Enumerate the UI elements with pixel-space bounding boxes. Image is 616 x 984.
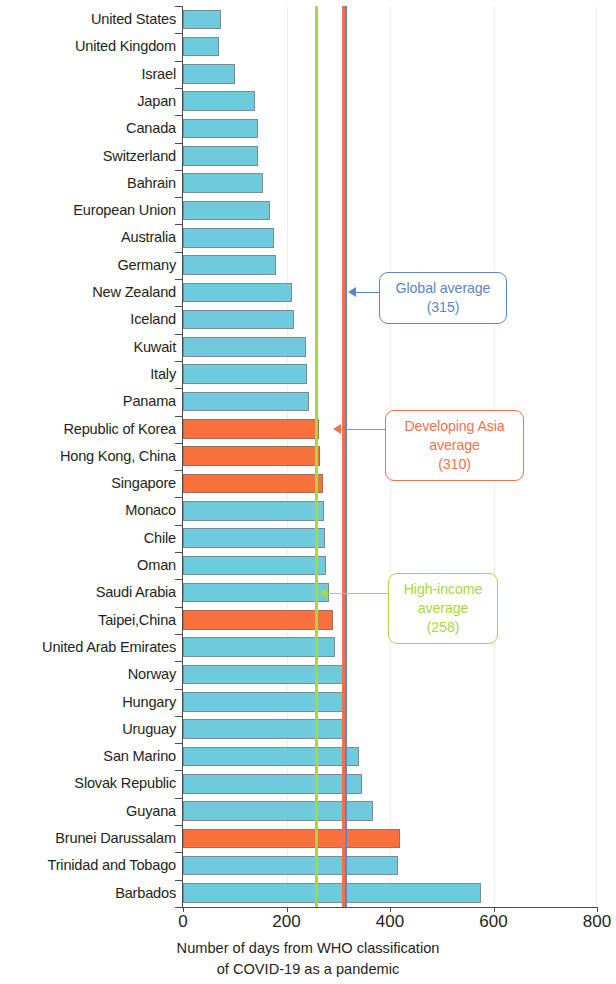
category-tick — [175, 497, 183, 498]
category-label: Panama — [4, 388, 176, 415]
value-tick-label: 800 — [583, 912, 611, 932]
category-tick — [175, 443, 183, 444]
bar — [183, 255, 276, 275]
category-label: Australia — [4, 224, 176, 251]
category-tick — [175, 825, 183, 826]
category-label: United Kingdom — [4, 33, 176, 60]
axis-title-line2: of COVID-19 as a pandemic — [0, 959, 616, 980]
bar-row — [183, 33, 597, 60]
bar — [183, 446, 320, 466]
category-label: Barbados — [4, 880, 176, 907]
bar — [183, 37, 219, 57]
category-label: Hungary — [4, 689, 176, 716]
category-label: Iceland — [4, 306, 176, 333]
arrow-head-developing-asia-average — [333, 424, 341, 434]
callout-global-line2: (315) — [390, 298, 496, 317]
bar-row — [183, 798, 597, 825]
bar-row — [183, 825, 597, 852]
category-tick — [175, 634, 183, 635]
category-label: United States — [4, 6, 176, 33]
bar — [183, 10, 221, 30]
bar-row — [183, 224, 597, 251]
callout-asia-line3: (310) — [396, 455, 513, 474]
category-label: Norway — [4, 661, 176, 688]
category-tick — [175, 361, 183, 362]
bar-row — [183, 743, 597, 770]
bar-row — [183, 770, 597, 797]
category-label: Hong Kong, China — [4, 443, 176, 470]
bar — [183, 228, 274, 248]
category-tick — [175, 525, 183, 526]
category-tick — [175, 306, 183, 307]
bar — [183, 829, 400, 849]
leader-line-developing-asia-average — [339, 429, 385, 430]
bar-row — [183, 88, 597, 115]
category-label: San Marino — [4, 743, 176, 770]
reference-line-high-income-average — [315, 6, 317, 907]
category-tick — [175, 607, 183, 608]
callout-hi-line1: High-income — [399, 580, 487, 599]
bar — [183, 501, 324, 521]
bar — [183, 64, 235, 84]
bar — [183, 173, 263, 193]
callout-hi-line2: average — [399, 599, 487, 618]
callout-asia-line2: average — [396, 436, 513, 455]
category-tick — [175, 661, 183, 662]
leader-line-global-average — [354, 292, 379, 293]
value-tick-label: 400 — [376, 912, 404, 932]
bar — [183, 883, 481, 903]
axis-title-line1: Number of days from WHO classification — [0, 938, 616, 959]
category-tick — [175, 197, 183, 198]
arrow-head-global-average — [348, 287, 356, 297]
bar-chart: United StatesUnited KingdomIsraelJapanCa… — [0, 0, 616, 984]
category-tick — [175, 716, 183, 717]
bar — [183, 201, 270, 221]
bar — [183, 692, 344, 712]
category-tick — [175, 6, 183, 7]
category-tick — [175, 143, 183, 144]
category-tick — [175, 170, 183, 171]
category-tick — [175, 388, 183, 389]
bar — [183, 610, 333, 630]
category-label: Singapore — [4, 470, 176, 497]
bar — [183, 364, 307, 384]
bar — [183, 283, 292, 303]
bar-row — [183, 197, 597, 224]
category-label: Switzerland — [4, 143, 176, 170]
category-label: Brunei Darussalam — [4, 825, 176, 852]
bar-row — [183, 170, 597, 197]
bar — [183, 91, 255, 111]
bar — [183, 556, 326, 576]
bar-row — [183, 361, 597, 388]
category-label: Italy — [4, 361, 176, 388]
category-label: Israel — [4, 61, 176, 88]
category-label: Saudi Arabia — [4, 579, 176, 606]
category-axis-spine — [182, 6, 183, 907]
category-tick — [175, 224, 183, 225]
category-label: New Zealand — [4, 279, 176, 306]
category-tick — [175, 579, 183, 580]
category-label: Guyana — [4, 798, 176, 825]
category-label: Taipei,China — [4, 607, 176, 634]
bar — [183, 747, 359, 767]
category-label: United Arab Emirates — [4, 634, 176, 661]
bar — [183, 392, 309, 412]
category-tick — [175, 880, 183, 881]
reference-line-global-average — [345, 6, 347, 907]
category-tick — [175, 552, 183, 553]
leader-line-high-income-average — [325, 593, 388, 594]
category-tick — [175, 689, 183, 690]
category-tick — [175, 470, 183, 471]
category-label: Japan — [4, 88, 176, 115]
category-label: Chile — [4, 525, 176, 552]
bar-row — [183, 61, 597, 88]
callout-hi-line3: (258) — [399, 618, 487, 637]
category-tick — [175, 743, 183, 744]
category-label: Uruguay — [4, 716, 176, 743]
value-tick-label: 200 — [272, 912, 300, 932]
bar — [183, 665, 344, 685]
bar-row — [183, 689, 597, 716]
bar — [183, 119, 258, 139]
category-label: Trinidad and Tobago — [4, 852, 176, 879]
category-label: Republic of Korea — [4, 416, 176, 443]
